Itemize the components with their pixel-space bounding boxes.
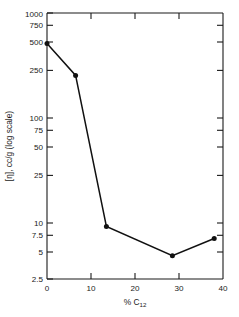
data-point-3 <box>170 253 175 258</box>
y-axis-label-50: 50 <box>34 143 44 152</box>
y-axis-label-75: 75 <box>34 126 44 135</box>
svg-text:% C12: % C12 <box>124 297 147 308</box>
x-axis-title: % C12 <box>124 297 147 308</box>
y-axis-label-7p5: 7.5 <box>32 231 44 240</box>
y-axis-label-2p5: 2.5 <box>32 275 44 284</box>
y-axis-label-10: 10 <box>34 219 44 228</box>
x-axis-label-40: 40 <box>218 284 228 293</box>
x-axis-title-subscript: 12 <box>139 301 146 308</box>
y-axis-label-500: 500 <box>29 38 43 47</box>
y-tick-labels: 1000 750 500 250 100 75 50 25 10 7.5 5 2… <box>25 10 44 285</box>
x-axis-label-20: 20 <box>130 284 140 293</box>
line-chart-svg: 1000 750 500 250 100 75 50 25 10 7.5 5 2… <box>0 0 239 317</box>
data-point-4 <box>212 236 217 241</box>
data-point-markers <box>45 41 217 258</box>
chart-figure: 1000 750 500 250 100 75 50 25 10 7.5 5 2… <box>0 0 239 317</box>
x-axis-label-0: 0 <box>45 284 50 293</box>
y-axis-label-25: 25 <box>34 171 44 180</box>
y-axis-title: [η], cc/g (log scale) <box>4 111 14 181</box>
data-point-0 <box>45 41 50 46</box>
y-axis-label-5: 5 <box>38 248 43 257</box>
x-axis-label-30: 30 <box>174 284 184 293</box>
x-axis-label-10: 10 <box>86 284 96 293</box>
y-axis-label-100: 100 <box>29 114 43 123</box>
x-axis-title-text: % C <box>124 297 140 307</box>
y-axis-label-1000: 1000 <box>25 10 44 19</box>
data-point-2 <box>104 224 109 229</box>
data-series-line <box>47 44 214 256</box>
data-point-1 <box>73 73 78 78</box>
y-axis-title-text: [η], cc/g (log scale) <box>4 111 14 181</box>
y-axis-label-750: 750 <box>29 21 43 30</box>
x-tick-labels: 0 10 20 30 40 <box>45 284 228 293</box>
y-axis-label-250: 250 <box>29 66 43 75</box>
